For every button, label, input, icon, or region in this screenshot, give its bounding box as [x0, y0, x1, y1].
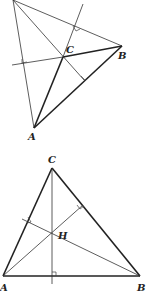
label-H: H [57, 230, 68, 241]
side-AC [34, 57, 63, 128]
label-C-top: C [66, 44, 74, 55]
extension-BC [12, 57, 63, 65]
altitude-from-A [3, 205, 83, 276]
label-B-bottom: B [136, 282, 145, 293]
geometry-figures: C B A C H A B [0, 0, 148, 296]
obtuse-triangle-figure: C B A [12, 0, 126, 142]
side-CB [52, 168, 140, 276]
line-apex-through-C [13, 0, 84, 80]
side-AB [34, 46, 122, 128]
label-A-top: A [27, 131, 36, 142]
altitude-from-B [22, 219, 140, 276]
label-B-top: B [117, 50, 126, 61]
acute-triangle-figure: C H A B [0, 154, 145, 293]
label-C-bottom: C [48, 154, 56, 165]
label-A-bottom: A [0, 282, 8, 293]
line-apex-to-B [13, 0, 122, 46]
